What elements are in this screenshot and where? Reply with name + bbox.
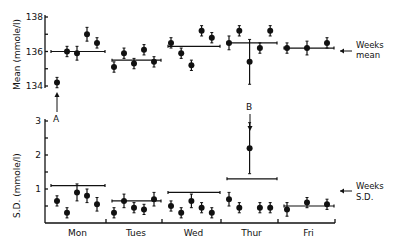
data-point bbox=[151, 57, 157, 67]
data-point bbox=[74, 184, 80, 201]
data-point bbox=[111, 62, 117, 72]
legend-weeks-sd-line2: S.D. bbox=[356, 192, 373, 202]
y-axis-label-mean: Mean (mmole/l) bbox=[12, 19, 22, 90]
data-point bbox=[111, 208, 117, 218]
data-point bbox=[74, 46, 80, 60]
data-point bbox=[54, 77, 60, 87]
y-tick-label: 136 bbox=[26, 47, 43, 57]
x-tick-label: Tues bbox=[125, 228, 146, 238]
annotation-a: A bbox=[53, 92, 60, 124]
annotation-b: B bbox=[246, 102, 253, 131]
data-point bbox=[236, 26, 242, 36]
arrow-left-icon bbox=[340, 189, 344, 194]
chart: 134136138123MonTuesWedThurFri Mean (mmol… bbox=[0, 0, 397, 248]
data-point bbox=[94, 38, 100, 48]
y-tick-label: 3 bbox=[35, 116, 41, 126]
data-point bbox=[178, 48, 184, 58]
data-point bbox=[94, 198, 100, 212]
data-point bbox=[64, 208, 70, 218]
legend-weeks-mean-line1: Weeks bbox=[356, 40, 384, 50]
data-point bbox=[84, 189, 90, 203]
y-tick-label: 2 bbox=[35, 150, 41, 160]
arrow-left-icon bbox=[340, 49, 344, 54]
data-point bbox=[257, 203, 263, 213]
data-point bbox=[267, 26, 273, 36]
data-point bbox=[178, 208, 184, 218]
data-point bbox=[247, 123, 253, 174]
data-point bbox=[168, 201, 174, 211]
annotation-b-label: B bbox=[246, 102, 252, 112]
legend-weeks-mean-line2: mean bbox=[356, 50, 380, 60]
data-point bbox=[141, 45, 147, 55]
data-point bbox=[84, 27, 90, 41]
data-point bbox=[131, 203, 137, 213]
x-tick-label: Thur bbox=[240, 228, 262, 238]
data-point bbox=[267, 203, 273, 213]
data-point bbox=[188, 194, 194, 208]
data-point bbox=[257, 43, 263, 53]
data-point bbox=[199, 203, 205, 213]
data-point bbox=[188, 60, 194, 70]
x-tick-label: Mon bbox=[68, 228, 87, 238]
legend-weeks-sd: Weeks S.D. bbox=[340, 181, 384, 202]
x-tick-label: Fri bbox=[303, 228, 314, 238]
y-tick-label: 138 bbox=[26, 12, 43, 22]
x-tick-label: Wed bbox=[184, 228, 204, 238]
y-tick-label: 134 bbox=[26, 81, 43, 91]
data-point bbox=[284, 203, 290, 217]
y-axis-label-sd: S.D. (mmole/l) bbox=[12, 153, 22, 218]
data-point bbox=[226, 192, 232, 206]
data-point bbox=[54, 196, 60, 206]
data-point bbox=[199, 26, 205, 36]
annotation-a-label: A bbox=[53, 114, 60, 124]
data-point bbox=[141, 204, 147, 214]
arrow-up-icon bbox=[55, 92, 60, 97]
data-point bbox=[324, 199, 330, 209]
data-point bbox=[121, 48, 127, 58]
data-series bbox=[54, 26, 330, 218]
data-point bbox=[236, 203, 242, 213]
data-point bbox=[247, 39, 253, 84]
data-point bbox=[209, 33, 215, 43]
legend-weeks-sd-line1: Weeks bbox=[356, 181, 384, 191]
y-tick-label: 1 bbox=[35, 184, 41, 194]
legend-weeks-mean: Weeks mean bbox=[340, 40, 384, 60]
data-point bbox=[324, 38, 330, 48]
data-point bbox=[209, 208, 215, 218]
data-point bbox=[151, 192, 157, 206]
arrow-down-icon bbox=[248, 126, 253, 131]
